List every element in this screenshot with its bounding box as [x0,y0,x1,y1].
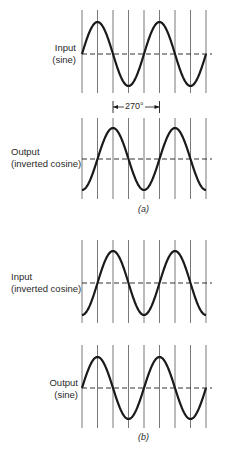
plot-a-output-label: Output (inverted cosine) [11,146,81,170]
label-line-1: Input [40,42,76,54]
plot-a-input-label: Input (sine) [40,42,76,66]
label-line-2: (inverted cosine) [11,158,81,170]
caption-b: (b) [138,432,149,442]
plot-b-input-label: Input (inverted cosine) [11,271,81,295]
label-line-1: Input [11,271,81,283]
caption-a: (a) [138,204,149,214]
phase-annotation-270: 270° [124,101,145,111]
plot-b-output-label: Output (sine) [40,377,78,401]
label-line-2: (sine) [40,54,76,66]
label-line-2: (sine) [40,389,78,401]
phase-shift-diagram [0,0,227,449]
label-line-2: (inverted cosine) [11,283,81,295]
arrowhead-left-icon [113,105,118,109]
label-line-1: Output [40,377,78,389]
label-line-1: Output [11,146,81,158]
arrowhead-right-icon [155,105,160,109]
